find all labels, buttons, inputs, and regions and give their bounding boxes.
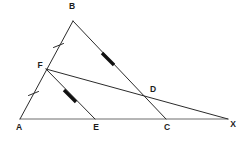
arrow-on-FE-icon — [64, 90, 76, 102]
vertex-label-A: A — [16, 122, 22, 132]
geometry-canvas: A B C D E F X — [0, 0, 244, 142]
vertex-label-F: F — [37, 60, 42, 70]
arrow-on-BD-icon — [102, 53, 114, 65]
geometry-figure: A B C D E F X — [0, 0, 244, 142]
segment-FX — [46, 69, 228, 119]
vertex-label-B: B — [69, 1, 75, 11]
segment-FE — [46, 69, 95, 119]
vertex-label-X: X — [230, 119, 236, 129]
segment-BC-extended-to-X — [73, 21, 166, 119]
vertex-label-D: D — [150, 84, 156, 94]
vertex-label-E: E — [93, 122, 99, 132]
vertex-label-C: C — [164, 122, 170, 132]
